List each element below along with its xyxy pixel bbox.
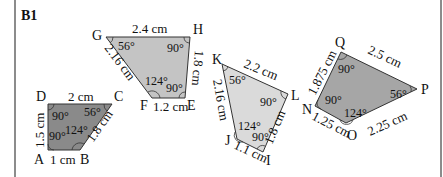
- side-gh: 2.4 cm: [132, 21, 167, 36]
- side-cd: 2 cm: [68, 89, 94, 104]
- side-he: 1.8 cm: [189, 50, 207, 87]
- angle-q: 90°: [338, 62, 355, 76]
- angle-i: 90°: [252, 130, 269, 144]
- side-ef: 1.2 cm: [153, 99, 188, 114]
- quadrilateral-abcd: A B C D 1 cm 2 cm 1.5 cm 1.8 cm 90° 56° …: [32, 89, 123, 167]
- angle-b: 124°: [65, 123, 88, 137]
- diagram-canvas: A B C D 1 cm 2 cm 1.5 cm 1.8 cm 90° 56° …: [0, 0, 443, 177]
- vertex-n: N: [302, 102, 312, 117]
- vertex-b: B: [80, 152, 89, 167]
- vertex-g: G: [92, 28, 102, 43]
- angle-o: 124°: [344, 106, 367, 120]
- angle-e: 90°: [166, 81, 183, 95]
- vertex-h: H: [193, 22, 203, 37]
- vertex-p: P: [421, 82, 429, 97]
- angle-h: 90°: [167, 41, 184, 55]
- angle-n: 90°: [325, 93, 342, 107]
- angle-d: 90°: [52, 109, 69, 123]
- quadrilateral-nopq: Q P O N 2.5 cm 1.875 cm 1.25 cm 2.25 cm …: [302, 35, 429, 143]
- quadrilateral-ijkl: K L I J 2.2 cm 2.16 cm 1.8 cm 1.1 cm 56°…: [210, 52, 300, 168]
- angle-g: 56°: [118, 39, 135, 53]
- angle-l: 90°: [260, 95, 277, 109]
- vertex-c: C: [114, 89, 123, 104]
- angle-c: 56°: [84, 105, 101, 119]
- quadrilateral-efgh: G H E F 2.4 cm 2.16 cm 1.8 cm 1.2 cm 56°…: [92, 21, 207, 114]
- vertex-d: D: [36, 89, 46, 104]
- vertex-a: A: [34, 152, 45, 167]
- side-op: 2.25 cm: [365, 108, 409, 139]
- angle-f: 124°: [145, 74, 168, 88]
- angle-p: 56°: [390, 87, 407, 101]
- vertex-q: Q: [335, 35, 345, 50]
- vertex-l: L: [291, 88, 300, 103]
- side-da: 1.5 cm: [32, 113, 47, 148]
- vertex-j: J: [225, 133, 231, 148]
- angle-k: 56°: [229, 73, 246, 87]
- vertex-k: K: [212, 52, 222, 67]
- side-ab: 1 cm: [50, 152, 76, 167]
- vertex-f: F: [140, 98, 148, 113]
- angle-a: 90°: [49, 129, 66, 143]
